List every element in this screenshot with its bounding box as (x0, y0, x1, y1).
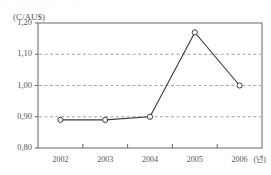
x-axis-unit-label: (년) (254, 155, 266, 164)
y-axis-tick-label: 0,80 (4, 143, 32, 152)
line-chart-plot (0, 0, 271, 175)
gridlines (39, 54, 261, 117)
x-axis-tick-label: 2002 (40, 155, 80, 164)
data-point-marker (147, 114, 152, 119)
data-point-marker (237, 83, 242, 88)
x-axis-tick-label: 2004 (130, 155, 170, 164)
data-point-marker (103, 117, 108, 122)
data-point-marker (58, 117, 63, 122)
chart-figure: · · · · · · · · (C/AU$) 0,800,901,001,10… (0, 0, 271, 175)
x-axis-ticks (83, 144, 217, 148)
data-point-markers (58, 30, 242, 123)
y-axis-tick-label: 1,00 (4, 81, 32, 90)
y-axis-tick-label: 0,90 (4, 112, 32, 121)
x-axis-tick-label: 2003 (85, 155, 125, 164)
data-point-marker (192, 30, 197, 35)
y-axis-tick-label: 1,10 (4, 49, 32, 58)
data-line (60, 32, 239, 120)
y-axis-tick-label: 1,20 (4, 18, 32, 27)
x-axis-tick-label: 2005 (175, 155, 215, 164)
